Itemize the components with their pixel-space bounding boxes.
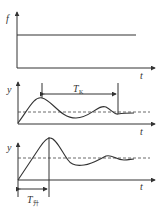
panel-response-1: T K y t — [6, 82, 155, 137]
interval-sub: 升 — [33, 199, 39, 207]
figure: f t T K y t T 升 y t — [0, 0, 161, 213]
y-label: y — [6, 84, 12, 95]
interval-sub: K — [79, 89, 84, 95]
x-label: t — [140, 181, 143, 192]
x-label: t — [140, 70, 143, 81]
x-label: t — [140, 126, 143, 137]
y-label: f — [6, 13, 10, 24]
response-curve — [18, 98, 134, 123]
y-label: y — [6, 142, 12, 153]
panel-response-2: T 升 y t — [6, 137, 155, 207]
response-curve — [18, 138, 134, 180]
panel-input: f t — [6, 12, 155, 81]
